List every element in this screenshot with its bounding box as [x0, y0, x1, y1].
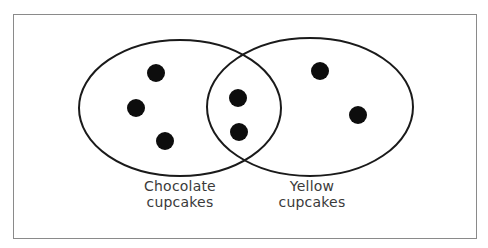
cupcake-dot-chocolate-only — [156, 132, 174, 150]
chocolate-cupcakes-set — [79, 40, 281, 176]
cupcake-dot-both — [230, 123, 248, 141]
cupcake-dot-chocolate-only — [127, 99, 145, 117]
cupcake-dot-both — [229, 89, 247, 107]
chocolate-cupcakes-label: Chocolate cupcakes — [130, 178, 230, 210]
cupcake-dot-yellow-only — [349, 106, 367, 124]
yellow-cupcakes-set — [207, 38, 413, 176]
yellow-cupcakes-label: Yellow cupcakes — [262, 178, 362, 210]
cupcake-dot-chocolate-only — [147, 64, 165, 82]
cupcake-dots — [127, 62, 367, 150]
cupcake-dot-yellow-only — [311, 62, 329, 80]
chocolate-label-line2: cupcakes — [130, 194, 230, 210]
chocolate-label-line1: Chocolate — [130, 178, 230, 194]
yellow-label-line2: cupcakes — [262, 194, 362, 210]
yellow-label-line1: Yellow — [262, 178, 362, 194]
venn-diagram — [0, 0, 488, 248]
